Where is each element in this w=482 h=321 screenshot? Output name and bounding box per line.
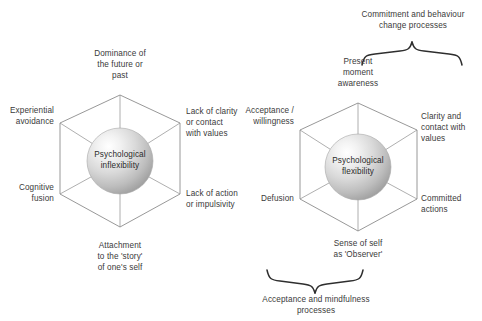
- top-brace-label: Commitment and behaviour change processe…: [349, 9, 477, 32]
- right-vertex-label-bottom: Sense of self as 'Observer': [302, 238, 414, 260]
- bottom-brace-label: Acceptance and mindfulness processes: [251, 294, 381, 317]
- left-vertex-label-bottom: Attachment to the 'story' of one's self: [62, 240, 178, 274]
- left-vertex-label-lower-left: Cognitive fusion: [0, 182, 54, 204]
- hexaflex-diagram: Dominance of the future or past Lack of …: [0, 0, 482, 321]
- right-vertex-label-top: Present moment awareness: [302, 56, 414, 90]
- left-vertex-label-upper-left: Experiential avoidance: [0, 105, 54, 127]
- left-vertex-label-top: Dominance of the future or past: [62, 48, 178, 82]
- right-vertex-label-lower-right: Committed actions: [421, 193, 482, 215]
- left-core-label: Psychological inflexibility: [78, 149, 162, 171]
- right-vertex-label-lower-left: Defusion: [230, 193, 294, 204]
- right-vertex-label-upper-left: Acceptance / willingness: [230, 105, 294, 127]
- right-vertex-label-upper-right: Clarity and contact with values: [421, 111, 482, 145]
- bottom-brace-icon: [267, 270, 363, 293]
- right-core-label: Psychological flexibility: [316, 155, 400, 177]
